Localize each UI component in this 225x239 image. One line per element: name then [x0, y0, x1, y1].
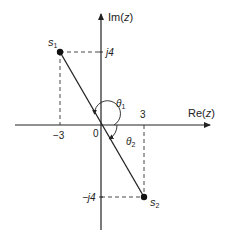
tick-x-neg: −3 — [53, 130, 65, 141]
tick-y-pos: j4 — [104, 47, 114, 58]
s1-label: s1 — [48, 36, 58, 49]
point-s1 — [57, 49, 63, 55]
theta2-arc — [110, 125, 118, 139]
x-axis-label: Re(z) — [188, 107, 215, 119]
tick-x-pos: 3 — [140, 109, 146, 120]
complex-plane-diagram: Im(z) Re(z) 0 −3 3 j4 −j4 s1 s2 θ1 θ2 — [0, 0, 225, 239]
origin-label: 0 — [93, 128, 99, 139]
theta2-label: θ2 — [126, 136, 135, 148]
s2-label: s2 — [150, 196, 160, 209]
point-s2 — [141, 194, 147, 200]
tick-y-neg: −j4 — [82, 192, 96, 203]
theta1-label: θ1 — [116, 98, 125, 110]
y-axis-label: Im(z) — [108, 11, 133, 23]
